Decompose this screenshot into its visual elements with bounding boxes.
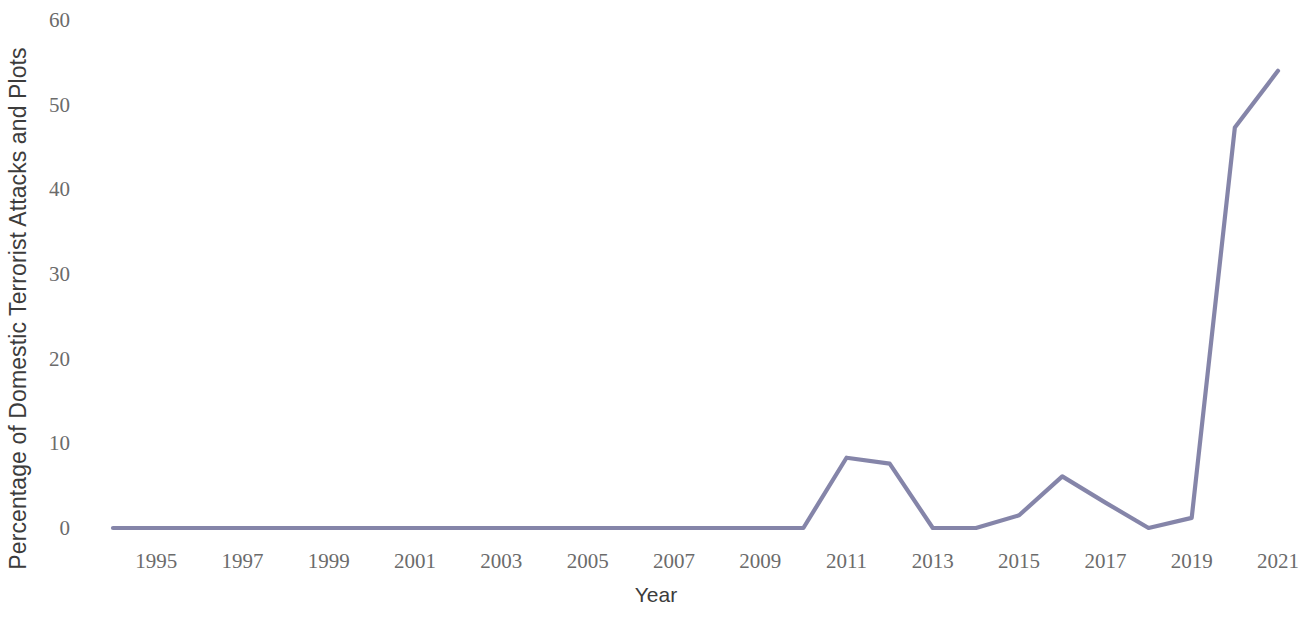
x-tick-label: 2011	[802, 549, 892, 574]
plot-area	[0, 0, 1312, 617]
x-tick-label: 1999	[284, 549, 374, 574]
series-svg	[0, 0, 1312, 617]
y-tick-label: 40	[0, 177, 70, 202]
x-tick-label: 2005	[543, 549, 633, 574]
y-tick-label: 50	[0, 92, 70, 117]
series-line-percentage	[113, 71, 1278, 528]
x-tick-label: 1997	[197, 549, 287, 574]
y-tick-label: 0	[0, 516, 70, 541]
x-tick-label: 2003	[456, 549, 546, 574]
x-tick-label: 2017	[1060, 549, 1150, 574]
y-tick-label: 20	[0, 346, 70, 371]
x-tick-label: 2013	[888, 549, 978, 574]
y-tick-label: 10	[0, 431, 70, 456]
line-chart: Percentage of Domestic Terrorist Attacks…	[0, 0, 1312, 617]
x-tick-label: 2019	[1147, 549, 1237, 574]
y-tick-label: 60	[0, 8, 70, 33]
y-tick-label: 30	[0, 262, 70, 287]
x-tick-label: 2007	[629, 549, 719, 574]
x-tick-label: 2021	[1233, 549, 1312, 574]
x-tick-label: 2009	[715, 549, 805, 574]
x-tick-label: 1995	[111, 549, 201, 574]
x-axis-title: Year	[0, 583, 1312, 607]
x-tick-label: 2001	[370, 549, 460, 574]
x-tick-label: 2015	[974, 549, 1064, 574]
